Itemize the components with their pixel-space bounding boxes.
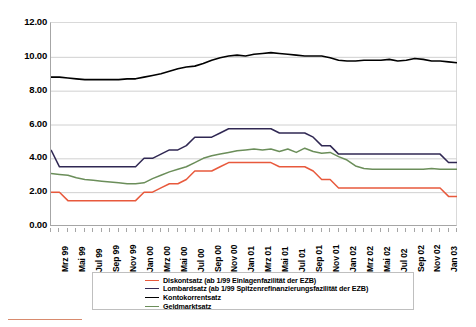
x-axis-tick-label: Nov 01 [331,245,341,272]
y-axis-tick-label: 2.00 [1,186,47,196]
x-axis-tick-mark [92,228,93,232]
x-axis-tick-mark [253,228,254,232]
x-axis-tick-mark [346,228,347,232]
x-axis-tick-mark [422,228,423,232]
x-axis-tick-mark [448,228,449,232]
legend-color-swatch [145,280,159,281]
x-axis-tick-mark [67,228,68,232]
x-axis-tick-mark [321,228,322,232]
legend-item-label: Geldmarktsatz [163,302,211,311]
x-axis-tick-label: Sep 01 [314,245,324,272]
footer-divider [8,319,82,320]
legend-item: Kontokorrentsatz [145,293,413,302]
x-axis-tick-mark [397,228,398,232]
x-axis-tick-label: Jan 03 [449,246,459,272]
x-axis-tick-mark [143,228,144,232]
x-axis-tick-label: Mrz 99 [60,246,70,272]
x-axis-tick-label: Nov 00 [229,245,239,272]
x-axis-tick-mark [261,228,262,232]
x-axis-tick-mark [168,228,169,232]
x-axis-tick-mark [270,228,271,232]
x-axis-tick-label: Jan 00 [145,246,155,272]
legend-item: Diskontsatz (ab 1/99 Einlagenfazilität d… [145,276,413,285]
x-axis-tick-mark [278,228,279,232]
x-axis-tick-label: Jul 00 [196,249,206,273]
x-axis-tick-mark [329,228,330,232]
x-axis-tick-mark [118,228,119,232]
x-axis-tick-mark [304,228,305,232]
x-axis-tick-label: Mai 99 [77,247,87,272]
y-axis-tick-label: 6.00 [1,119,47,129]
x-axis-tick-label: Jan 01 [246,246,256,272]
x-axis-tick-mark [355,228,356,232]
x-axis-tick-label: Sep 02 [416,245,426,272]
x-axis-tick-mark [152,228,153,232]
x-axis-tick-label: Mrz 00 [162,246,172,272]
x-axis-tick-mark [50,228,51,232]
x-axis-tick-mark [228,228,229,232]
x-axis-tick-mark [245,228,246,232]
x-axis-tick-label: Sep 00 [213,245,223,272]
x-axis-tick-mark [287,228,288,232]
x-axis-tick-label: Mai 01 [280,247,290,272]
x-axis-tick-mark [380,228,381,232]
legend-color-swatch [145,297,159,298]
plot-area [50,22,457,226]
x-axis-tick-label: Sep 99 [111,245,121,272]
x-axis-tick-mark [414,228,415,232]
legend-item: Geldmarktsatz [145,302,413,311]
x-axis-tick-label: Jul 01 [297,249,307,273]
x-axis-tick-label: Mrz 01 [263,246,273,272]
x-axis-tick-mark [219,228,220,232]
x-axis-tick-label: Jul 02 [399,249,409,273]
x-axis-tick-mark [185,228,186,232]
x-axis-tick-mark [101,228,102,232]
x-axis-tick-label: Mrz 02 [365,246,375,272]
x-axis-tick-mark [109,228,110,232]
interest-rate-line-chart: 12.0010.008.006.004.002.000.00 Mrz 99Mai… [0,0,476,327]
x-axis-tick-label: Nov 02 [432,245,442,272]
x-axis-tick-mark [135,228,136,232]
plot-svg [51,23,457,226]
x-axis-tick-mark [202,228,203,232]
x-axis-tick-label: Jan 02 [348,246,358,272]
x-axis-tick-mark [75,228,76,232]
legend-color-swatch [145,306,159,307]
chart-legend: Diskontsatz (ab 1/99 Einlagenfazilität d… [92,272,414,310]
x-axis-tick-mark [236,228,237,232]
x-axis-tick-mark [388,228,389,232]
y-axis: 12.0010.008.006.004.002.000.00 [0,0,47,240]
series-line [51,53,457,80]
x-axis-tick-mark [160,228,161,232]
x-axis-tick-label: Jul 99 [94,249,104,273]
x-axis-tick-mark [126,228,127,232]
legend-item: Lombardsatz (ab 1/99 Spitzenrefinanzieru… [145,285,413,294]
x-axis-tick-mark [363,228,364,232]
y-axis-tick-label: 10.00 [1,51,47,61]
series-line [51,129,457,167]
x-axis-tick-mark [194,228,195,232]
y-axis-tick-label: 0.00 [1,220,47,230]
x-axis-tick-mark [405,228,406,232]
x-axis-tick-mark [177,228,178,232]
x-axis-tick-mark [439,228,440,232]
x-axis: Mrz 99Mai 99Jul 99Sep 99Nov 99Jan 00Mrz … [50,228,458,272]
y-axis-tick-label: 12.00 [1,17,47,27]
y-axis-tick-label: 4.00 [1,152,47,162]
x-axis-tick-mark [431,228,432,232]
x-axis-tick-mark [312,228,313,232]
x-axis-tick-mark [58,228,59,232]
y-axis-tick-label: 8.00 [1,85,47,95]
x-axis-tick-mark [211,228,212,232]
x-axis-tick-mark [338,228,339,232]
x-axis-tick-mark [295,228,296,232]
x-axis-tick-label: Mai 02 [382,247,392,272]
x-axis-tick-mark [84,228,85,232]
x-axis-tick-mark [456,228,457,232]
x-axis-tick-mark [371,228,372,232]
x-axis-tick-label: Mai 00 [179,247,189,272]
legend-color-swatch [145,288,159,289]
x-axis-tick-label: Nov 99 [128,245,138,272]
